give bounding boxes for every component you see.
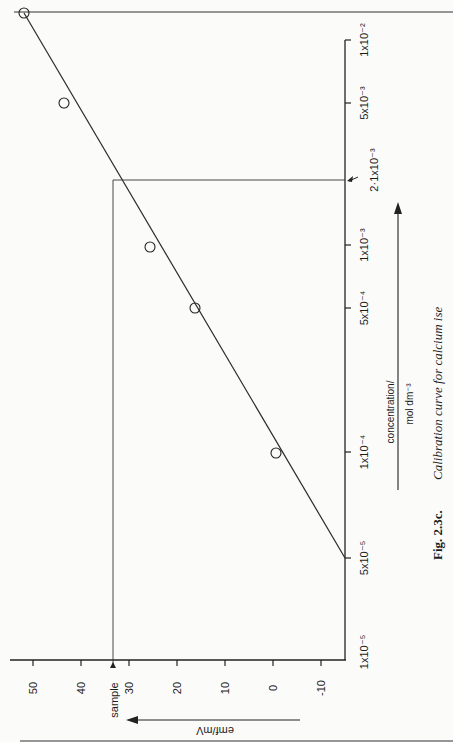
conc-tick-labels: 1x10⁻² 5x10⁻³ 2·1x10⁻³ 1x10⁻³ 5x10⁻⁴ 1x1…	[358, 23, 380, 669]
point-5e-3	[59, 98, 69, 108]
conc-tick-5e-4: 5x10⁻⁴	[358, 290, 370, 325]
point-1e-3	[145, 242, 155, 252]
data-points	[19, 8, 281, 458]
calibration-chart: 50 40 30 20 10 0 -10 1x10⁻² 5x10⁻³ 2·1x1…	[0, 0, 453, 742]
figure-caption-number: Fig. 2.3c.	[430, 510, 445, 560]
emf-tick-40: 40	[75, 682, 87, 694]
figure-caption-text: Calibration curve for calcium ise	[430, 306, 445, 480]
conc-tick-1e-3: 1x10⁻³	[358, 228, 370, 262]
emf-tick-10: 10	[219, 682, 231, 694]
emf-tick-20: 20	[171, 682, 183, 694]
sample-label: sample	[108, 682, 120, 717]
conc-tick-1e-4: 1x10⁻⁴	[358, 434, 370, 469]
sample-arrowhead-icon	[110, 662, 116, 668]
emf-ticks	[33, 660, 321, 666]
conc-tick-5e-3: 5x10⁻³	[358, 86, 370, 120]
conc-tick-1e-2: 1x10⁻²	[358, 23, 370, 57]
conc-tick-2-1e-3: 2·1x10⁻³	[368, 148, 380, 192]
conc-arrow-icon	[394, 202, 402, 214]
emf-tick-labels: 50 40 30 20 10 0 -10	[27, 680, 327, 696]
emf-tick-30: 30	[123, 682, 135, 694]
emf-tick-50: 50	[27, 682, 39, 694]
conc-ticks	[345, 40, 351, 558]
emf-tick-0: 0	[267, 685, 279, 691]
emf-arrow-icon	[126, 716, 138, 724]
emf-tick-minus10: -10	[315, 680, 327, 696]
conc-tick-1e-5: 1x10⁻⁵	[358, 635, 370, 669]
conc-label-bottom: mol dm⁻³	[404, 383, 415, 425]
conc-label-top: concentration/	[385, 380, 396, 443]
emf-axis-label: emf/mV	[195, 725, 234, 737]
conc-tick-5e-5: 5x10⁻⁵	[358, 541, 370, 575]
calibration-line	[24, 13, 345, 558]
point-1e-4	[271, 448, 281, 458]
arrowhead-icon	[347, 176, 353, 182]
